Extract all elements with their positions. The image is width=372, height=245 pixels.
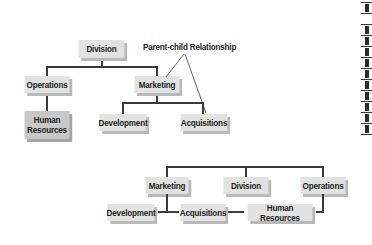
- connector: [322, 166, 324, 177]
- node-label: Division: [231, 181, 261, 191]
- connector: [228, 211, 244, 213]
- flat-node-development: Development: [108, 204, 155, 221]
- connector: [166, 194, 168, 212]
- node-label: Acquisitions: [180, 208, 226, 218]
- flat-node-acquisitions: Acquisitions: [181, 204, 226, 221]
- clipped-table-edge: [361, 0, 372, 150]
- connector: [166, 166, 168, 177]
- diagram-canvas: Division Operations Marketing Human Reso…: [0, 0, 372, 245]
- connector: [322, 194, 324, 212]
- connector: [245, 166, 247, 177]
- node-label: Operations: [303, 181, 344, 191]
- connector: [316, 211, 324, 213]
- connector: [158, 211, 179, 213]
- node-label: Human Resources: [248, 203, 313, 223]
- node-label: Marketing: [149, 181, 186, 191]
- node-label: Development: [107, 208, 156, 218]
- flat-node-operations: Operations: [301, 177, 346, 194]
- flat-node-division: Division: [224, 177, 269, 194]
- flat-node-marketing: Marketing: [145, 177, 188, 194]
- flat-node-human-resources: Human Resources: [248, 204, 313, 221]
